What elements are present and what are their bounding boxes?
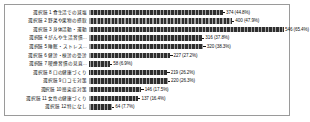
bar-track: 320 (38.3%) <box>89 42 289 51</box>
bar-chart-plot-area: 選択肢 1 食生活での減塩374 (44.8%)選択肢 2 野菜や果物の摂取40… <box>5 8 289 112</box>
bar-track: 146 (17.5%) <box>89 85 289 94</box>
bar-track: 316 (37.8%) <box>89 34 289 43</box>
bar <box>89 104 112 109</box>
bar-category-label: 選択肢 7 喫煙習慣の見直… <box>5 61 88 66</box>
bar-track: 64 (7.7%) <box>89 103 289 112</box>
bar-value-label: 316 (37.8%) <box>205 35 229 40</box>
bar-category-label: 選択肢 11 女性の健康づくり <box>5 96 88 101</box>
bar-category-label: 選択肢 5 睡眠・ストレス… <box>5 44 88 49</box>
bar-value-label: 546 (65.4%) <box>285 27 297 32</box>
bar-row: 選択肢 11 女性の健康づくり137 (16.4%) <box>5 94 289 103</box>
bar-row: 選択肢 4 がんや生活習慣…316 (37.8%) <box>5 34 289 43</box>
bar-track: 374 (44.8%) <box>89 8 289 17</box>
bar-row: 選択肢 7 喫煙習慣の見直…58 (6.9%) <box>5 60 289 69</box>
bar-row: 選択肢 10 感染症対策146 (17.5%) <box>5 85 289 94</box>
bar-value-label: 374 (44.8%) <box>226 10 250 15</box>
bar-track: 137 (16.4%) <box>89 94 289 103</box>
bar <box>89 10 223 15</box>
bar <box>89 78 168 83</box>
bar <box>89 87 141 92</box>
bar-value-label: 320 (38.3%) <box>206 44 230 49</box>
bar-row: 選択肢 5 睡眠・ストレス…320 (38.3%) <box>5 42 289 51</box>
bar-category-label: 選択肢 12 特になし <box>5 104 88 109</box>
bar-row: 選択肢 12 特になし64 (7.7%) <box>5 103 289 112</box>
bar <box>89 53 170 58</box>
bar-row: 選択肢 8 口の健康づくり219 (26.2%) <box>5 68 289 77</box>
chart-frame: 選択肢 1 食生活での減塩374 (44.8%)選択肢 2 野菜や果物の摂取40… <box>4 4 290 116</box>
bar-row: 選択肢 2 野菜や果物の摂取400 (47.9%) <box>5 17 289 26</box>
bar-category-label: 選択肢 2 野菜や果物の摂取 <box>5 18 88 23</box>
bar-row: 選択肢 3 身体活動・運動546 (65.4%) <box>5 25 289 34</box>
bar-value-label: 64 (7.7%) <box>115 104 135 109</box>
bar-row: 選択肢 6 健診・検診の受診227 (27.2%) <box>5 51 289 60</box>
bar-category-label: 選択肢 9 ロコモ対策 <box>5 78 88 83</box>
bar <box>89 96 138 101</box>
bar <box>89 18 232 23</box>
bar-value-label: 146 (17.5%) <box>144 87 168 92</box>
bar-track: 227 (27.2%) <box>89 51 289 60</box>
bar-value-label: 58 (6.9%) <box>113 61 133 66</box>
bar <box>89 70 167 75</box>
bar-row: 選択肢 9 ロコモ対策220 (26.3%) <box>5 77 289 86</box>
bar <box>89 61 110 66</box>
bar <box>89 44 203 49</box>
bar-track: 58 (6.9%) <box>89 60 289 69</box>
bar-category-label: 選択肢 4 がんや生活習慣… <box>5 35 88 40</box>
bar-value-label: 220 (26.3%) <box>171 78 195 83</box>
bar-category-label: 選択肢 1 食生活での減塩 <box>5 10 88 15</box>
bar-track: 219 (26.2%) <box>89 68 289 77</box>
bar-value-label: 219 (26.2%) <box>170 70 194 75</box>
bar-value-label: 137 (16.4%) <box>141 96 165 101</box>
bar <box>89 27 284 32</box>
bar-category-label: 選択肢 10 感染症対策 <box>5 87 88 92</box>
bar-value-label: 227 (27.2%) <box>173 53 197 58</box>
bar-track: 220 (26.3%) <box>89 77 289 86</box>
bar-row: 選択肢 1 食生活での減塩374 (44.8%) <box>5 8 289 17</box>
bar <box>89 35 202 40</box>
bar-category-label: 選択肢 8 口の健康づくり <box>5 70 88 75</box>
bar-value-label: 400 (47.9%) <box>235 18 259 23</box>
bar-track: 546 (65.4%) <box>89 25 289 34</box>
bar-category-label: 選択肢 6 健診・検診の受診 <box>5 53 88 58</box>
bar-track: 400 (47.9%) <box>89 17 289 26</box>
bar-category-label: 選択肢 3 身体活動・運動 <box>5 27 88 32</box>
